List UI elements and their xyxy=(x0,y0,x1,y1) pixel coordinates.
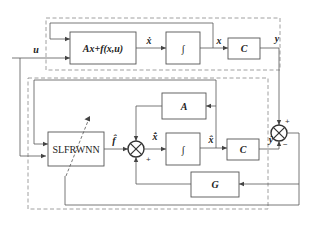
fhat-label: f̂ xyxy=(112,134,117,146)
y-line xyxy=(260,48,279,125)
plant-output-label: C xyxy=(241,43,248,54)
A-to-sum-line xyxy=(136,106,162,141)
xhatdot-label: x̂̇ xyxy=(152,131,158,142)
dynamics-label: Ax+f(x,u) xyxy=(82,43,123,55)
u-to-network-line xyxy=(20,58,46,156)
error-sum-minus: − xyxy=(283,140,288,149)
xhat-label: x̂ xyxy=(208,134,214,145)
adaptive-arrowhead xyxy=(84,115,91,122)
xdot-label: ẋ xyxy=(146,35,152,46)
a-label: A xyxy=(180,101,188,112)
x-label: x xyxy=(216,35,222,46)
u-label: u xyxy=(33,44,39,55)
g-label: G xyxy=(211,179,219,190)
error-to-network-line xyxy=(65,176,299,205)
observer-sum-plus: + xyxy=(146,155,151,164)
error-sum-plus: + xyxy=(285,117,290,126)
y-label: y xyxy=(274,33,280,44)
observer-output-label: C xyxy=(240,144,247,155)
block-diagram: Ax+f(x,u) ∫ C ẋ x u y + − SLFRWNN f̂ + A… xyxy=(0,0,312,228)
yhat-label: ŷ xyxy=(268,134,274,145)
network-label: SLFRWNN xyxy=(52,144,99,155)
